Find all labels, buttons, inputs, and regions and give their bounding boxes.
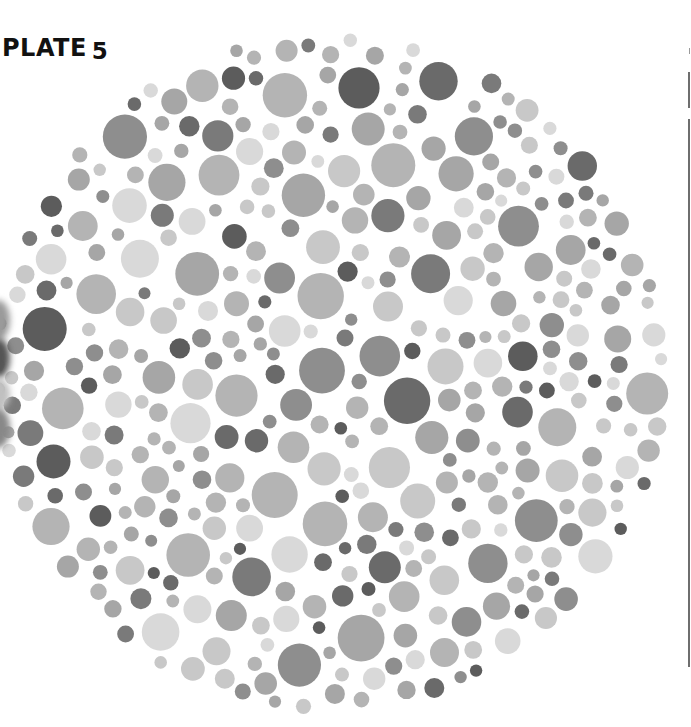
- plate-dot: [648, 417, 666, 435]
- plate-dot: [166, 533, 210, 577]
- plate-dot: [88, 244, 105, 261]
- plate-dot: [149, 403, 168, 422]
- plate-dot: [404, 343, 420, 359]
- plate-dot: [345, 313, 357, 325]
- plate-dot: [576, 282, 593, 299]
- plate-dot: [325, 684, 345, 704]
- plate-dot: [9, 287, 25, 303]
- plate-dot: [299, 348, 345, 394]
- plate-dot: [419, 62, 457, 100]
- plate-dot: [462, 519, 481, 538]
- plate-dot: [432, 221, 461, 250]
- plate-dot: [301, 39, 315, 53]
- plate-dot: [240, 200, 255, 215]
- plate-dot: [112, 228, 125, 241]
- plate-dot: [124, 527, 139, 542]
- plate-dot: [132, 446, 149, 463]
- plate-dot: [236, 138, 263, 165]
- plate-dot: [121, 240, 159, 278]
- plate-dot: [430, 566, 460, 596]
- plate-dot: [220, 552, 232, 564]
- plate-dot: [183, 595, 211, 623]
- plate-dot: [224, 291, 249, 316]
- plate-title-number: 5: [92, 38, 109, 64]
- plate-dot: [20, 384, 37, 401]
- plate-dot: [605, 211, 629, 235]
- plate-dot: [215, 425, 239, 449]
- plate-dot: [267, 347, 280, 360]
- plate-dot: [406, 650, 425, 669]
- plate-dot: [182, 369, 213, 400]
- plate-dot: [199, 155, 240, 196]
- plate-dot: [252, 472, 298, 518]
- plate-dot: [558, 193, 574, 209]
- plate-dot: [161, 89, 187, 115]
- plate-dot: [234, 543, 246, 555]
- plate-dot: [512, 487, 525, 500]
- plate-dot: [352, 374, 367, 389]
- plate-dot: [61, 277, 73, 289]
- plate-dot: [611, 500, 624, 513]
- plate-dot: [209, 204, 222, 217]
- page-edge-rule-top: [688, 72, 690, 108]
- plate-dot: [384, 103, 396, 115]
- plate-dot: [452, 498, 466, 512]
- plate-dot: [464, 382, 482, 400]
- plate-dot: [459, 332, 476, 349]
- plate-dot: [203, 637, 231, 665]
- plate-dot: [109, 339, 129, 359]
- plate-dot: [254, 337, 267, 350]
- plate-dot: [262, 123, 279, 140]
- plate-dot: [148, 148, 163, 163]
- plate-dot: [13, 466, 34, 487]
- plate-dot: [103, 365, 122, 384]
- plate-dot: [578, 539, 612, 573]
- plate-dot: [206, 492, 226, 512]
- plate-dot: [175, 252, 219, 296]
- plate-dot: [342, 207, 368, 233]
- plate-dot: [322, 46, 339, 63]
- plate-dot: [535, 197, 549, 211]
- plate-dot: [236, 515, 263, 542]
- plate-dot: [346, 397, 368, 419]
- plate-dot: [354, 692, 370, 708]
- plate-dot: [369, 551, 401, 583]
- plate-dot: [527, 569, 539, 581]
- plate-dot: [7, 337, 24, 354]
- plate-dot: [516, 182, 530, 196]
- plate-dot: [579, 186, 594, 201]
- plate-dot: [198, 301, 218, 321]
- plate-dot: [264, 263, 295, 294]
- plate-dot: [556, 271, 572, 287]
- plate-dot: [413, 217, 429, 233]
- plate-dot: [148, 567, 160, 579]
- plate-dot: [637, 439, 659, 461]
- plate-dot: [130, 588, 151, 609]
- plate-dot: [456, 429, 480, 453]
- plate-dot: [626, 373, 668, 415]
- page-edge-tick: [689, 48, 690, 54]
- plate-dot: [68, 169, 90, 191]
- plate-dot: [143, 361, 176, 394]
- plate-dot: [23, 307, 67, 351]
- plate-dot: [278, 432, 310, 464]
- plate-dot: [535, 607, 557, 629]
- plate-dot: [222, 331, 239, 348]
- plate-dot: [232, 558, 271, 597]
- plate-dot: [170, 403, 210, 443]
- plate-dot: [603, 248, 617, 262]
- plate-dot: [105, 426, 124, 445]
- plate-dot: [319, 67, 336, 84]
- plate-dot: [582, 473, 603, 494]
- plate-dot: [37, 281, 57, 301]
- plate-dot: [384, 378, 430, 424]
- plate-dot: [82, 422, 101, 441]
- plate-dot: [491, 291, 517, 317]
- plate-dot: [424, 678, 444, 698]
- plate-dot: [460, 257, 484, 281]
- plate-dot: [548, 169, 564, 185]
- plate-dot: [215, 669, 235, 689]
- plate-dot: [479, 331, 491, 343]
- plate-dot: [366, 47, 384, 65]
- plate-dot: [139, 287, 151, 299]
